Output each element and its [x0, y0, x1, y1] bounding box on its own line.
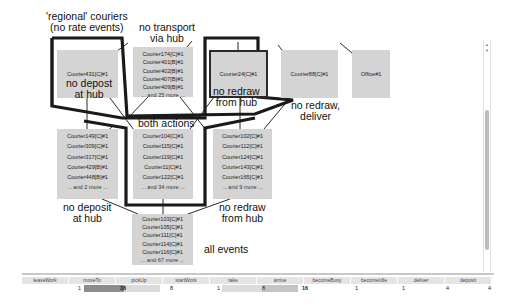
- node-item: Courier112[C]#1: [213, 141, 272, 151]
- node-item: Courier105[C]#1: [132, 223, 193, 231]
- node-item: Courier114[C]#1: [132, 240, 193, 248]
- node-item: Courier143[C]#1: [213, 162, 272, 172]
- scroll-down-arrow-icon[interactable]: ▼: [485, 48, 489, 53]
- histogram-value: 1: [78, 285, 81, 292]
- histogram-column-deposit[interactable]: deposit: [445, 277, 491, 284]
- node-item: Courier88[C]#1: [291, 70, 329, 78]
- node-item: Courier165[C]#1: [213, 172, 272, 182]
- attribute-histogram: leaveWork moveTo pickUp startWork take a…: [22, 273, 494, 297]
- annotation-line: via hub: [139, 33, 195, 44]
- node-more-link[interactable]: ... and 67 more ...: [132, 256, 193, 264]
- annotation-line: deliver: [291, 111, 340, 122]
- scrollbar-thumb[interactable]: [485, 110, 489, 250]
- annotation-regional-couriers: 'regional' couriers (no rate events): [46, 11, 128, 33]
- node-more-link[interactable]: ... and 34 more ...: [133, 182, 193, 192]
- histogram-value: 38: [120, 285, 126, 292]
- histogram-value: 1: [355, 285, 358, 292]
- node-item: Courier111[C]#1: [132, 231, 193, 239]
- node-item: Courier407[B]#1: [133, 75, 193, 83]
- node-item: Courier448[B]#1: [57, 172, 118, 182]
- histogram-value: 4: [488, 285, 491, 292]
- node-group-104[interactable]: Courier104[C]#1 Courier115[C]#1 Courier1…: [133, 129, 193, 199]
- node-item: Courier401[B]#1: [133, 58, 193, 66]
- histogram-column-pickup[interactable]: pickUp: [116, 277, 162, 284]
- node-item: Courier11[C]#1: [133, 162, 193, 172]
- histogram-column-becomebusy[interactable]: becomeBusy: [304, 277, 350, 284]
- node-item: Courier116[C]#1: [132, 248, 193, 256]
- annotation-both-actions: both actions: [138, 118, 195, 129]
- histogram-value: 4: [446, 285, 449, 292]
- annotation-line: from hub: [213, 97, 260, 108]
- node-item: Courier124[C]#1: [213, 152, 272, 162]
- histogram-column-becomeidle[interactable]: becomeIdle: [351, 277, 397, 284]
- histogram-column-moveto[interactable]: moveTo: [69, 277, 115, 284]
- annotation-no-redraw-top: no redraw from hub: [213, 86, 260, 108]
- histogram-divider: [22, 273, 494, 275]
- node-group-103[interactable]: Courier103[C]#1 Courier105[C]#1 Courier1…: [132, 214, 193, 265]
- node-item: Courier317[C]#1: [57, 152, 118, 162]
- annotation-line: (no rate events): [46, 22, 128, 33]
- histogram-column-take[interactable]: take: [210, 277, 256, 284]
- node-item: Courier409[B]#1: [133, 83, 193, 91]
- node-item: Courier115[C]#1: [133, 141, 193, 151]
- histogram-bar-arrive: [262, 285, 298, 292]
- lattice-diagram: Courier431[C]#1 Courier174[C]#1 Courier4…: [0, 0, 516, 270]
- node-item: Courier174[C]#1: [133, 50, 193, 58]
- histogram-bar-take: [222, 285, 262, 292]
- histogram-value: 1: [217, 285, 220, 292]
- annotation-no-redraw-deliver: no redraw, deliver: [291, 100, 340, 122]
- annotation-line: at hub: [66, 89, 112, 100]
- node-item: Courier104[C]#1: [133, 131, 193, 141]
- node-more-link[interactable]: ... and 25 more ...: [133, 91, 193, 99]
- annotation-no-depost: no depost at hub: [66, 78, 112, 100]
- node-group-174[interactable]: Courier174[C]#1 Courier401[B]#1 Courier4…: [133, 47, 193, 97]
- node-item: Courier429[B]#1: [57, 162, 118, 172]
- scroll-up-arrow-icon[interactable]: ▲: [485, 42, 489, 47]
- annotation-no-deposit: no deposit at hub: [63, 202, 111, 224]
- node-item: Courier102[C]#1: [213, 131, 272, 141]
- annotation-line: from hub: [219, 213, 266, 224]
- node-item: Courier309[C]#1: [57, 141, 118, 151]
- histogram-value: 8: [170, 285, 173, 292]
- annotation-line: at hub: [63, 213, 111, 224]
- histogram-column-startwork[interactable]: startWork: [163, 277, 209, 284]
- histogram-value: 8: [262, 285, 265, 292]
- node-item: Courier119[C]#1: [133, 152, 193, 162]
- histogram-column-deliver[interactable]: deliver: [398, 277, 444, 284]
- histogram-value: 16: [302, 285, 308, 292]
- node-courier88[interactable]: Courier88[C]#1: [281, 50, 338, 98]
- histogram-bar-moveto: [84, 285, 124, 292]
- histogram-bar-pickup: [124, 285, 160, 292]
- histogram-value: 1: [402, 285, 405, 292]
- node-more-link[interactable]: ... and 9 more ...: [213, 182, 272, 192]
- annotation-no-redraw-mid: no redraw from hub: [219, 202, 266, 224]
- node-group-102[interactable]: Courier102[C]#1 Courier112[C]#1 Courier1…: [213, 129, 272, 199]
- annotation-all-events: all events: [204, 244, 248, 255]
- annotation-no-transport: no transport via hub: [139, 22, 195, 44]
- histogram-column-leavework[interactable]: leaveWork: [22, 277, 68, 284]
- node-item: Courier24[C]#1: [220, 70, 258, 78]
- node-office1[interactable]: Office#1: [352, 50, 390, 98]
- histogram-column-arrive[interactable]: arrive: [257, 277, 303, 284]
- node-more-link[interactable]: ... and 2 more ...: [57, 182, 118, 192]
- node-item: Courier402[B]#1: [133, 67, 193, 75]
- node-item: Courier149[C]#1: [57, 131, 118, 141]
- node-group-149[interactable]: Courier149[C]#1 Courier309[C]#1 Courier3…: [57, 129, 118, 199]
- node-item: Courier103[C]#1: [132, 215, 193, 223]
- node-item: Courier122[C]#1: [133, 172, 193, 182]
- node-item: Office#1: [361, 70, 382, 78]
